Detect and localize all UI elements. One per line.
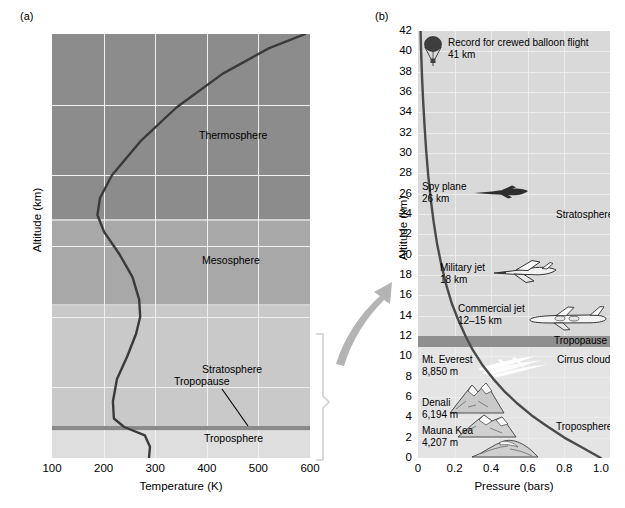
x-tick: 1.0	[581, 462, 621, 474]
x-tick: 0.2	[435, 462, 475, 474]
y-tick: 6	[378, 390, 412, 402]
y-tick: 42	[378, 24, 412, 36]
panel-b-plot-area: Tropopause	[418, 31, 610, 458]
panel-b-tag: (b)	[375, 10, 388, 22]
y-tick: 34	[378, 105, 412, 117]
panel-a-plot-area: Thermosphere Mesosphere Stratosphere Tro…	[52, 34, 310, 458]
annotation-mauna-kea-title: Mauna Kea	[422, 425, 473, 436]
layer-label-thermosphere: Thermosphere	[199, 129, 267, 141]
annotation-everest-title: Mt. Everest	[422, 354, 473, 365]
annotation-tropopause: Tropopause	[174, 375, 230, 387]
annotation-denali: Denali 6,194 m	[422, 397, 458, 420]
y-tick: 40	[378, 44, 412, 56]
annotation-military-jet: Military jet 18 km	[440, 262, 485, 285]
x-axis-label: Temperature (K)	[52, 480, 310, 492]
pressure-curve	[418, 31, 610, 458]
layer-label-troposphere-b: Troposphere	[556, 421, 610, 432]
y-tick: 4	[378, 410, 412, 422]
layer-label-troposphere: Troposphere	[204, 432, 263, 444]
layer-label-stratosphere: Stratosphere	[202, 363, 262, 375]
annotation-military-jet-title: Military jet	[440, 262, 485, 273]
annotation-everest-value: 8,850 m	[422, 366, 458, 377]
x-tick: 400	[185, 462, 229, 474]
tropopause-leader-line	[52, 34, 310, 458]
annotation-commercial-jet-value: 12–15 km	[458, 315, 502, 326]
layer-label-stratosphere-b: Stratosphere	[556, 209, 610, 220]
y-axis-label-b: Altitude (km)	[397, 183, 409, 273]
x-tick: 100	[30, 462, 74, 474]
zoom-arrow-icon	[330, 278, 400, 368]
annotation-mauna-kea: Mauna Kea 4,207 m	[422, 425, 473, 448]
x-tick: 300	[133, 462, 177, 474]
annotation-everest: Mt. Everest 8,850 m	[422, 354, 473, 377]
x-tick: 200	[82, 462, 126, 474]
annotation-balloon-value: 41 km	[448, 49, 475, 60]
annotation-balloon: Record for crewed balloon flight 41 km	[448, 37, 589, 60]
x-tick: 0.6	[508, 462, 548, 474]
panel-b: (b) Tropopause	[340, 0, 625, 508]
annotation-mauna-kea-value: 4,207 m	[422, 437, 458, 448]
y-tick: 32	[378, 126, 412, 138]
x-tick: 0.4	[471, 462, 511, 474]
mauna-kea-icon	[470, 435, 540, 458]
y-tick: 2	[378, 431, 412, 443]
annotation-military-jet-value: 18 km	[440, 274, 467, 285]
x-axis-label-b: Pressure (bars)	[418, 480, 610, 492]
x-tick: 500	[236, 462, 280, 474]
panel-a-tag: (a)	[20, 10, 33, 22]
x-tick: 0.8	[544, 462, 584, 474]
annotation-spy-plane-value: 26 km	[422, 193, 449, 204]
panel-a: (a) Thermosphere Mesosphere Stratosphere	[0, 0, 340, 508]
annotation-commercial-jet: Commercial jet 12–15 km	[458, 303, 525, 326]
y-tick: 36	[378, 85, 412, 97]
layer-label-mesosphere: Mesosphere	[202, 254, 260, 266]
military-jet-icon	[492, 259, 558, 285]
annotation-balloon-title: Record for crewed balloon flight	[448, 37, 589, 48]
annotation-commercial-jet-title: Commercial jet	[458, 303, 525, 314]
y-tick: 38	[378, 65, 412, 77]
x-tick: 0	[398, 462, 438, 474]
y-axis-label: Altitude (km)	[31, 175, 43, 265]
balloon-icon	[422, 35, 444, 69]
annotation-spy-plane-title: Spy plane	[422, 181, 466, 192]
annotation-spy-plane: Spy plane 26 km	[422, 181, 466, 204]
annotation-cirrus-clouds: Cirrus clouds	[557, 354, 610, 366]
annotation-denali-title: Denali	[422, 397, 450, 408]
spy-plane-icon	[472, 185, 530, 201]
y-tick: 30	[378, 146, 412, 158]
y-tick: 8	[378, 370, 412, 382]
y-tick: 28	[378, 166, 412, 178]
commercial-jet-icon	[526, 305, 608, 331]
annotation-denali-value: 6,194 m	[422, 409, 458, 420]
